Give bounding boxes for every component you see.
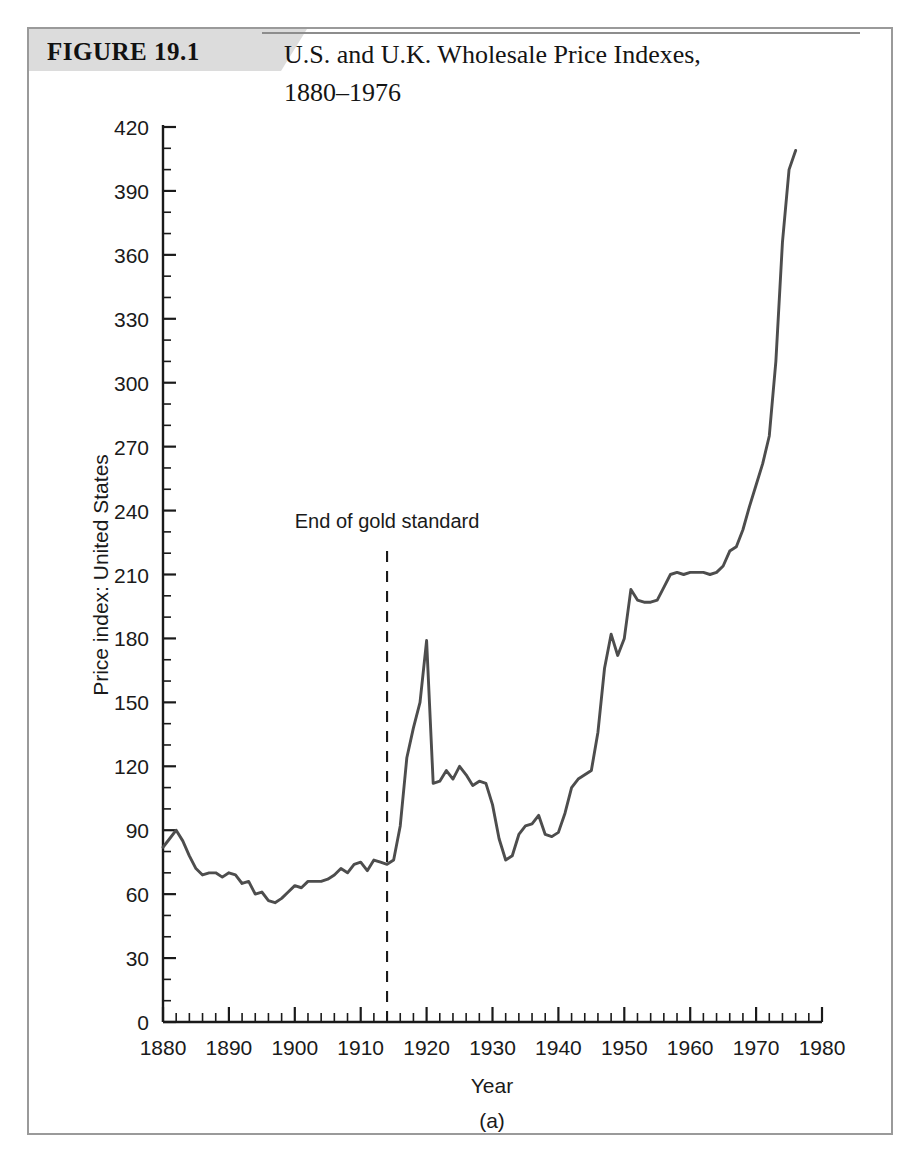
x-axis-tick-label: 1940: [535, 1036, 582, 1059]
y-axis-tick-label: 210: [114, 564, 149, 587]
x-axis-tick-label: 1900: [271, 1036, 318, 1059]
y-axis-tick-label: 30: [126, 947, 149, 970]
panel-caption: (a): [479, 1109, 505, 1132]
y-axis-tick-label: 120: [114, 755, 149, 778]
x-axis-tick-label: 1890: [206, 1036, 253, 1059]
x-axis-tick-label: 1920: [403, 1036, 450, 1059]
x-axis-tick-label: 1980: [799, 1036, 846, 1059]
y-axis-tick-label: 330: [114, 308, 149, 331]
y-axis-tick-label: 390: [114, 180, 149, 203]
chart-annotations: End of gold standard: [295, 510, 480, 1022]
y-axis-tick-label: 360: [114, 244, 149, 267]
annotation-label: End of gold standard: [295, 510, 480, 532]
figure-root: FIGURE 19.1 U.S. and U.K. Wholesale Pric…: [0, 0, 920, 1167]
y-axis-tick-label: 420: [114, 116, 149, 139]
x-axis-tick-label: 1960: [667, 1036, 714, 1059]
y-axis-tick-label: 240: [114, 500, 149, 523]
x-axis-tick-label: 1880: [140, 1036, 187, 1059]
x-axis-tick-label: 1910: [337, 1036, 384, 1059]
y-axis-tick-label: 150: [114, 691, 149, 714]
y-axis-tick-label: 180: [114, 627, 149, 650]
y-axis-tick-label: 300: [114, 372, 149, 395]
y-axis-tick-label: 0: [137, 1011, 149, 1034]
y-axis: 0306090120150180210240270300330360390420: [114, 116, 176, 1034]
y-axis-title: Price index: United States: [89, 454, 112, 696]
y-axis-tick-label: 270: [114, 436, 149, 459]
y-axis-tick-label: 90: [126, 819, 149, 842]
x-axis-tick-label: 1970: [733, 1036, 780, 1059]
chart-plot-area: 0306090120150180210240270300330360390420…: [0, 0, 920, 1167]
x-axis: 1880189019001910192019301940195019601970…: [140, 1007, 846, 1059]
x-axis-tick-label: 1930: [469, 1036, 516, 1059]
x-axis-tick-label: 1950: [601, 1036, 648, 1059]
y-axis-tick-label: 60: [126, 883, 149, 906]
x-axis-title: Year: [471, 1074, 513, 1097]
chart-svg: 0306090120150180210240270300330360390420…: [0, 0, 920, 1167]
